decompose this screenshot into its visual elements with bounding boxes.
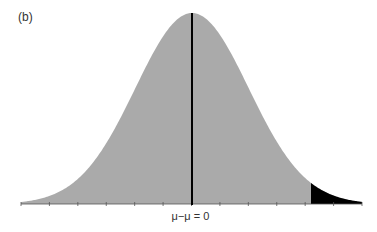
rejection-tail-area xyxy=(311,183,362,204)
x-axis-label-text: μ−μ = 0 xyxy=(172,210,210,222)
x-axis-label: μ−μ = 0 xyxy=(0,210,377,222)
normal-curve-chart xyxy=(0,0,377,232)
